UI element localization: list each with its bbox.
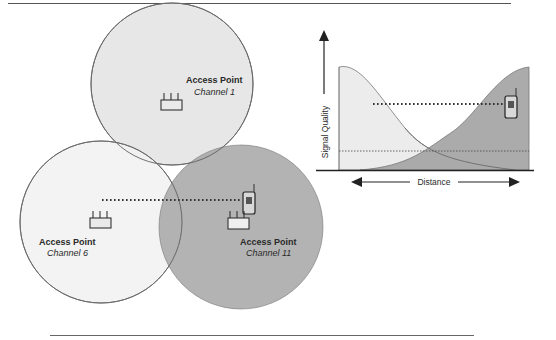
ap-channel: Channel 11	[246, 248, 291, 258]
y-axis-label: Signal Quality	[320, 105, 330, 158]
ap-title: Access Point	[186, 75, 243, 85]
y-axis-arrow	[319, 30, 329, 94]
ap-title: Access Point	[39, 237, 96, 247]
ap-title: Access Point	[240, 237, 297, 247]
ap-channel: Channel 6	[47, 248, 88, 258]
x-axis-label: Distance	[417, 177, 450, 187]
signal-quality-graph: Signal Quality Distance	[316, 30, 534, 187]
coverage-circles	[20, 3, 323, 309]
ap-channel: Channel 1	[194, 87, 235, 97]
wifi-channel-diagram: Access Point Channel 1 Access Point Chan…	[0, 0, 556, 340]
